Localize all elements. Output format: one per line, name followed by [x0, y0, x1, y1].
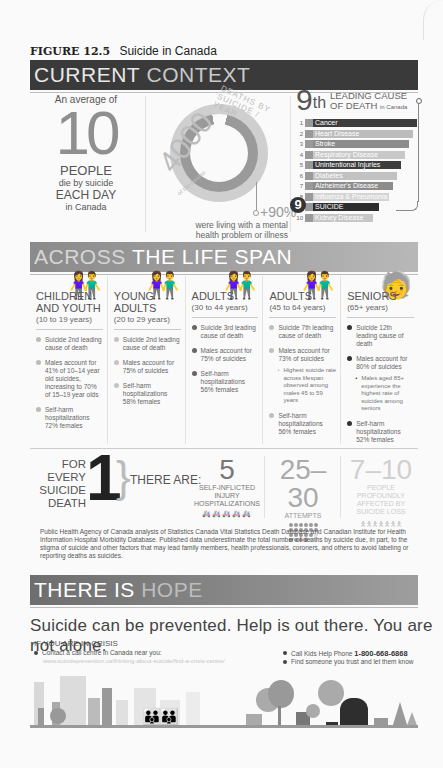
daily-deaths-panel: An average of 10 PEOPLE die by suicide E…: [32, 86, 140, 236]
stat-label: PEOPLE PROFOUNDLY AFFECTED BY SUICIDE LO…: [342, 484, 420, 516]
group-title: ADULTS: [269, 290, 336, 302]
cause-bar-stub: [305, 130, 313, 138]
rank-heading: 9th: [296, 86, 326, 114]
leading-cause-row: 9SUICIDE: [296, 202, 420, 213]
building-shape: [116, 700, 128, 728]
rank-number: 9: [296, 83, 313, 116]
building-shape: [186, 692, 200, 728]
cause-bar-stub: [305, 193, 313, 201]
leading-cause-row: 7Alzheimer's Disease: [296, 181, 420, 192]
group-title: SENIORS: [347, 290, 414, 302]
infographic-page: FIGURE 12.5 Suicide in Canada CURRENT CO…: [0, 0, 443, 768]
section-header-word: CURRENT: [34, 63, 140, 87]
leading-cause-row: 8Influenza & Pneumonia: [296, 192, 420, 203]
section-header-word: ACROSS: [34, 245, 126, 269]
attempt-dot: [314, 523, 318, 527]
attempt-dot: [309, 523, 313, 527]
stat-hospitalizations: 5 SELF-INFLICTED INJURY HOSPITALIZATIONS…: [192, 456, 262, 518]
section-header-word: THE LIFE SPAN: [132, 245, 292, 269]
divider: [347, 317, 414, 318]
leading-cause-row: 6Diabetes: [296, 171, 420, 182]
divider: [145, 96, 146, 232]
leading-cause-title-line2: OF DEATH: [330, 100, 377, 111]
cause-bar: Alzheimer's Disease: [313, 182, 393, 190]
tree-shape: [50, 708, 66, 724]
group-fact: Self-harm hospitalizations 52% females: [347, 420, 414, 444]
barn-icon: [340, 698, 368, 728]
divider: [114, 329, 181, 330]
crisis-centre-link[interactable]: www.suicideprevention.ca/thinking-about-…: [43, 658, 225, 664]
for-every-text: FOR EVERY SUICIDE DEATH: [34, 458, 86, 510]
group-subfact: Males aged 85+ experience the highest ra…: [347, 375, 414, 413]
group-age-range: (20 to 29 years): [114, 315, 181, 324]
cause-bar: Heart Disease: [313, 130, 413, 138]
divider: [36, 329, 103, 330]
mental-health-note: were living with a mental health problem…: [188, 220, 288, 240]
there-are-label: THERE ARE:: [130, 473, 201, 487]
connector-dot-icon: [253, 210, 259, 216]
rank-badge: 9: [290, 197, 306, 213]
group-age-range: (30 to 44 years): [192, 303, 259, 312]
group-fact: Suicide 12th leading cause of death: [347, 324, 414, 348]
circle-marker-icon: [416, 98, 422, 104]
leading-cause-row: 4Respiratory Disease: [296, 150, 420, 161]
stat-label: SELF-INFLICTED INJURY HOSPITALIZATIONS: [192, 484, 262, 508]
trust-bullet: Find someone you trust and let them know: [283, 658, 413, 665]
leading-cause-panel: 9th LEADING CAUSE OF DEATH in Canada 1Ca…: [296, 86, 420, 236]
kids-help-label: Call Kids Help Phone: [291, 650, 352, 657]
group-fact: Males account for 73% of suicides: [269, 347, 336, 363]
page-curl-decoration: [423, 0, 443, 40]
brace-icon: }: [116, 455, 131, 499]
daily-die-text: die by suicide: [32, 178, 140, 188]
cause-bar-stub: [305, 172, 313, 180]
attempt-dot: [299, 523, 303, 527]
group-title: ADULTS: [192, 290, 259, 302]
ground-line: [30, 725, 418, 728]
section-header-word: THERE IS: [34, 578, 135, 602]
tree-shape: [306, 704, 320, 718]
group-fact: Suicide 3rd leading cause of death: [192, 324, 259, 340]
section-header-hope: THERE IS HOPE: [30, 575, 418, 605]
group-fact: Self-harm hospitalizations 58% females: [114, 382, 181, 406]
life-span-group: 👫YOUNG ADULTS(20 to 29 years)Suicide 2nd…: [108, 276, 186, 444]
group-fact: Suicide 2nd leading cause of death: [36, 336, 103, 352]
tree-shape: [268, 680, 294, 708]
leading-cause-row: 10Kidney Disease: [296, 213, 420, 224]
stat-value: 5: [192, 456, 262, 484]
stat-label: ATTEMPTS: [268, 512, 338, 520]
cause-rank: 4: [296, 152, 303, 158]
source-note: Public Health Agency of Canada analysis …: [40, 528, 420, 560]
group-fact: Males account for 80% of suicides: [347, 355, 414, 371]
stat-affected: 7–10 PEOPLE PROFOUNDLY AFFECTED BY SUICI…: [342, 456, 420, 530]
cause-bar-stub: [305, 214, 313, 222]
daily-people: PEOPLE: [32, 163, 140, 178]
group-age-range: (45 to 64 years): [269, 303, 336, 312]
cause-bar-stub: [305, 203, 313, 211]
group-age-range: (65+ years): [347, 303, 414, 312]
cause-bar: SUICIDE: [313, 203, 379, 211]
group-age-range: (10 to 19 years): [36, 315, 103, 324]
group-title: CHILDREN AND YOUTH: [36, 290, 103, 314]
cause-bar-stub: [305, 119, 313, 127]
cause-bar: Stroke: [313, 140, 409, 148]
cause-rank: 1: [296, 120, 303, 126]
cause-bar-stub: [305, 182, 313, 190]
for-every-line: SUICIDE: [34, 484, 86, 497]
cause-bar: Diabetes: [313, 172, 397, 180]
cause-rank: 6: [296, 173, 303, 179]
leading-cause-row: 1Cancer: [296, 118, 420, 129]
divider: [340, 456, 341, 518]
rank-suffix: th: [313, 94, 326, 111]
kids-help-phone[interactable]: 1-800-668-6868: [354, 649, 407, 658]
building-shape: [102, 688, 112, 728]
group-fact: Suicide 2nd leading cause of death: [114, 336, 181, 352]
section-header-word: CONTEXT: [147, 63, 251, 87]
divider: [30, 607, 418, 608]
cause-bar: Influenza & Pneumonia: [313, 193, 389, 201]
daily-where: in Canada: [32, 202, 140, 212]
contact-bullet: Contact a call centre in Canada near you…: [34, 649, 162, 656]
cause-rank: 3: [296, 141, 303, 147]
for-every-line: DEATH: [34, 497, 86, 510]
leading-cause-row: 3Stroke: [296, 139, 420, 150]
group-title: YOUNG ADULTS: [114, 290, 181, 314]
